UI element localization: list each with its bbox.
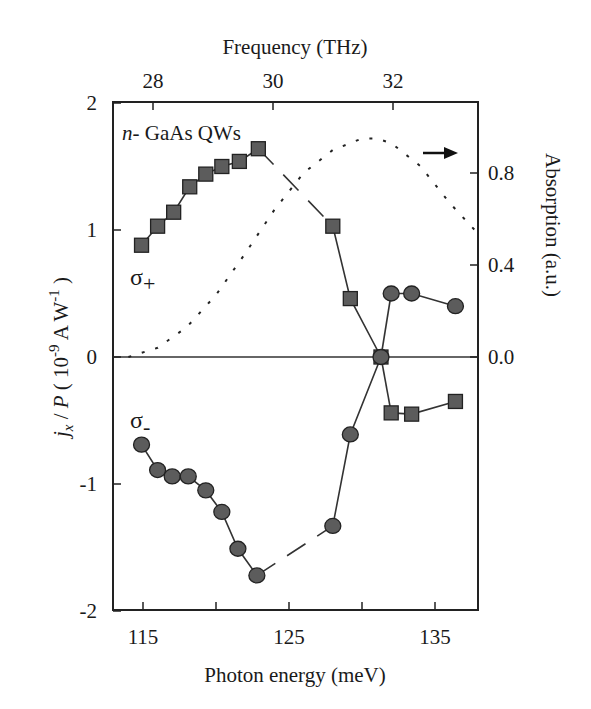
series-line <box>391 401 455 414</box>
circle-marker <box>404 286 420 301</box>
circle-marker <box>325 518 341 533</box>
y-tick-label: 1 <box>87 218 98 242</box>
y-tick-label: 0 <box>87 345 98 369</box>
square-marker <box>135 238 149 252</box>
square-marker <box>232 154 246 168</box>
square-marker <box>151 219 165 233</box>
circle-marker <box>164 469 180 484</box>
square-marker <box>215 160 229 174</box>
x-tick-label: 135 <box>419 625 451 649</box>
right-y-tick-label: 0.4 <box>488 253 515 277</box>
sigma-plus-label: σ+ <box>130 264 155 296</box>
top-x-axis-label: Frequency (THz) <box>222 35 367 59</box>
circle-marker <box>383 286 399 301</box>
right-y-tick-label: 0.8 <box>488 161 514 185</box>
series-line <box>333 357 381 526</box>
square-marker <box>384 406 398 420</box>
square-marker <box>251 142 265 156</box>
series-line <box>381 294 391 358</box>
square-marker <box>199 167 213 181</box>
sigma-minus-label: σ- <box>130 407 150 439</box>
top-x-tick-label: 28 <box>143 69 164 93</box>
square-marker <box>167 205 181 219</box>
series-line <box>381 357 391 413</box>
y-tick-label: -1 <box>80 472 98 496</box>
absorption-curve <box>128 139 477 358</box>
circle-marker <box>134 437 150 452</box>
circle-marker <box>230 541 246 556</box>
series-line <box>257 526 333 576</box>
y-tick-label: 2 <box>87 91 98 115</box>
y-tick-label: -2 <box>80 599 98 623</box>
sample-annotation: n- GaAs QWs <box>122 121 241 145</box>
circle-marker <box>447 299 463 314</box>
x-tick-label: 125 <box>273 625 305 649</box>
circle-marker <box>214 504 230 519</box>
arrow-right-icon <box>444 147 458 159</box>
circle-marker <box>180 469 196 484</box>
series-line <box>391 294 455 307</box>
square-marker <box>448 394 462 408</box>
series-line <box>258 149 333 227</box>
circle-marker <box>249 568 265 583</box>
circle-marker <box>373 350 389 365</box>
plot-frame <box>113 102 478 610</box>
circle-marker <box>150 463 166 478</box>
square-marker <box>343 292 357 306</box>
top-x-tick-label: 30 <box>263 69 284 93</box>
square-marker <box>405 407 419 421</box>
plot-area: 115125135Photon energy (meV)283032Freque… <box>0 0 591 709</box>
right-y-tick-label: 0.0 <box>488 345 514 369</box>
square-marker <box>183 180 197 194</box>
right-y-axis-label: Absorption (a.u.) <box>541 153 565 297</box>
circle-marker <box>198 483 214 498</box>
x-tick-label: 115 <box>128 625 159 649</box>
top-x-tick-label: 32 <box>383 69 404 93</box>
square-marker <box>326 219 340 233</box>
circle-marker <box>342 427 358 442</box>
y-axis-label: jx / P ( 10-9 A W-1 ) <box>46 277 76 440</box>
x-axis-label: Photon energy (meV) <box>204 663 386 687</box>
chart: 115125135Photon energy (meV)283032Freque… <box>0 0 591 709</box>
